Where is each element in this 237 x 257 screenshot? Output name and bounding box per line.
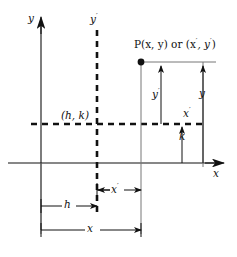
dim-x-prime-label: x′ xyxy=(111,183,119,194)
point-p-label-mid: , y xyxy=(197,38,210,50)
x-prime-axis-label: x′ xyxy=(183,107,191,118)
point-p-label: P(x, y) or (x′, y′) xyxy=(134,38,216,49)
dim-h-label: h xyxy=(64,199,71,210)
measure-y-label: y xyxy=(199,88,205,99)
point-p-label-end: ) xyxy=(212,38,216,50)
point-p-label-main: P(x, y) or (x xyxy=(134,38,196,50)
dim-x-label: x xyxy=(87,223,93,234)
new-origin-label: (h, k) xyxy=(61,110,89,121)
y-prime-axis-label: y′ xyxy=(90,13,98,24)
measure-y-prime-label: y′ xyxy=(152,88,160,99)
measure-y-prime-mark: ′ xyxy=(158,87,160,95)
measure-k-label: k xyxy=(179,131,185,142)
x-axis-label: x xyxy=(213,168,219,179)
y-axis-label: y xyxy=(28,13,34,24)
coordinate-translation-figure: y y′ x x′ P(x, y) or (x′, y′) (h, k) y′ … xyxy=(0,0,237,257)
y-prime-axis-prime-mark: ′ xyxy=(96,12,98,20)
point-p-marker xyxy=(138,59,145,66)
x-prime-axis-prime-mark: ′ xyxy=(189,106,191,114)
dim-x-prime-mark: ′ xyxy=(117,182,119,190)
